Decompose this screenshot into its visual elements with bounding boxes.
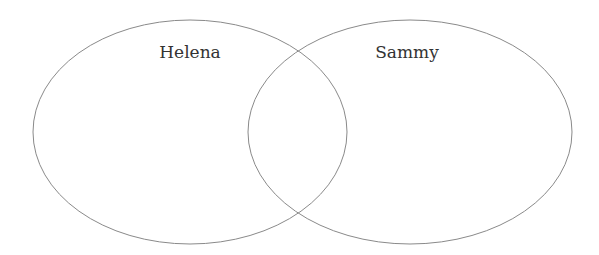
set-helena-label: Helena [159, 42, 220, 62]
venn-diagram: Helena Sammy [0, 0, 599, 255]
set-sammy-label: Sammy [375, 42, 439, 62]
